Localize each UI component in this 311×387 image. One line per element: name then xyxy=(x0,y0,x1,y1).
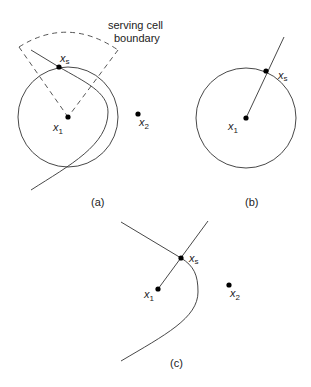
label-x1-b: x1 xyxy=(227,120,239,135)
label-xs-a: xs xyxy=(59,52,70,66)
diagram-canvas: xs x1 x2 serving cell boundary (a) xs x1… xyxy=(0,0,311,387)
sector-right-edge xyxy=(68,50,118,117)
point-xs-a xyxy=(56,64,61,69)
annotation-boundary: boundary xyxy=(114,32,160,44)
caption-a: (a) xyxy=(91,196,104,208)
caption-b: (b) xyxy=(245,196,258,208)
point-x1-c xyxy=(155,286,160,291)
hyperbola-curve-c xyxy=(121,258,198,361)
point-x1-b xyxy=(243,115,248,120)
point-x1-a xyxy=(65,114,70,119)
bearing-line-c xyxy=(158,221,208,289)
point-xs-c xyxy=(178,255,183,260)
label-x1-c: x1 xyxy=(143,288,155,303)
label-xs-c: xs xyxy=(188,252,199,266)
label-x1-a: x1 xyxy=(52,121,64,136)
point-xs-b xyxy=(263,68,268,73)
label-x2-c: x2 xyxy=(229,287,241,302)
hyperbola-curve-a xyxy=(31,50,108,190)
upper-line-c xyxy=(121,222,181,258)
label-xs-b: xs xyxy=(277,69,288,83)
label-x2-a: x2 xyxy=(138,116,150,131)
annotation-serving-cell: serving cell xyxy=(108,19,163,31)
caption-c: (c) xyxy=(170,357,183,369)
panel-b: xs x1 (b) xyxy=(196,37,296,208)
panel-c: xs x1 x2 (c) xyxy=(121,221,241,369)
panel-a: xs x1 x2 serving cell boundary (a) xyxy=(18,19,163,208)
serving-cell-boundary-sector xyxy=(19,32,118,50)
